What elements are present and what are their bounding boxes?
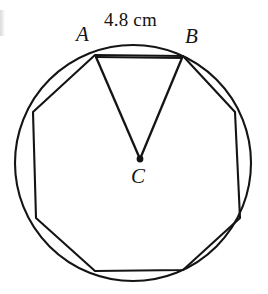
- side-length-label: 4.8 cm: [104, 10, 157, 29]
- inscribed-octagon: [33, 55, 240, 271]
- vertex-label-b: B: [185, 26, 198, 47]
- geometry-figure: A B C 4.8 cm: [0, 0, 268, 294]
- radius-cb-segment: [140, 58, 182, 159]
- circumscribed-circle: [15, 45, 251, 281]
- geometry-diagram: [0, 0, 268, 294]
- vertex-label-a: A: [76, 24, 89, 45]
- chord-ab-segment: [95, 57, 183, 58]
- radius-ca-segment: [96, 57, 140, 159]
- center-point-dot: [137, 156, 144, 163]
- center-label-c: C: [131, 166, 145, 187]
